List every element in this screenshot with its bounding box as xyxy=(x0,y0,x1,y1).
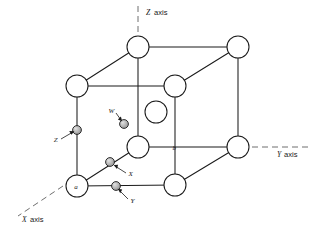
z-axis-label: axis xyxy=(154,8,168,17)
atom-bottom-back-right xyxy=(227,136,249,158)
atom-top-front-left xyxy=(66,75,88,97)
site-label-z: Z xyxy=(54,136,58,144)
x-axis-line xyxy=(18,186,63,216)
site-label-y: Y xyxy=(131,197,136,205)
atom-bottom-front-right xyxy=(164,174,186,196)
atom-top-front-right xyxy=(164,75,186,97)
corner-label-a: a xyxy=(74,183,78,191)
atom-top-back-right xyxy=(227,36,249,58)
site-label-x: X xyxy=(128,170,134,178)
y-axis-label-italic: Y xyxy=(277,150,282,159)
unit-cell-figure: Z axis Y axis X axis a b W X Y Z xyxy=(0,0,331,232)
site-label-w: W xyxy=(109,107,116,115)
small-atom-w-site xyxy=(120,120,129,129)
y-axis-label: axis xyxy=(284,150,298,159)
x-axis-label-italic: X xyxy=(21,215,27,224)
small-atom-x-site xyxy=(106,158,115,167)
atom-body-center xyxy=(145,101,167,123)
z-axis-label-italic: Z xyxy=(146,8,151,17)
atom-top-back-left xyxy=(127,36,149,58)
corner-label-b: b xyxy=(172,144,176,152)
arrowhead-x-icon xyxy=(114,165,119,169)
edge-bottom-front xyxy=(77,185,175,186)
large-atoms xyxy=(66,36,249,197)
x-axis-label: axis xyxy=(30,215,44,224)
small-atom-z-site xyxy=(73,126,82,135)
atom-bottom-back-left xyxy=(127,136,149,158)
